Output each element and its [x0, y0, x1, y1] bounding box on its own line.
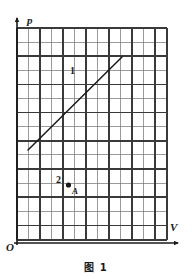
point-label-a: A: [72, 187, 78, 196]
grid-major-lines: [17, 28, 167, 240]
figure-caption: 图 1: [0, 259, 192, 274]
process-line-1: [28, 57, 122, 150]
figure-pv-diagram: p V O 1 2 A 图 1: [0, 0, 192, 278]
x-axis-label: V: [170, 222, 177, 233]
origin-label: O: [6, 242, 14, 253]
plot-canvas: [0, 0, 192, 278]
y-axis-label: p: [27, 15, 33, 26]
state-label-2: 2: [56, 175, 61, 185]
data-point-A: [66, 182, 71, 187]
process-line-label-1: 1: [70, 66, 75, 76]
